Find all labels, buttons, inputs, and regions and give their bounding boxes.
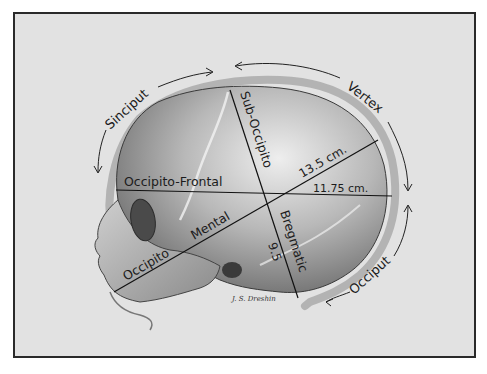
artist-signature: J. S. Dreshin bbox=[230, 295, 276, 303]
arrowhead-icon bbox=[326, 299, 333, 306]
ear-opening bbox=[222, 262, 242, 278]
sinciput-arrow-down bbox=[98, 130, 106, 172]
occipito-frontal-value: 11.75 cm. bbox=[313, 182, 368, 195]
vertex-arrow bbox=[236, 63, 340, 78]
occipito-frontal-label: Occipito-Frontal bbox=[124, 174, 223, 189]
skull-diagram: Sinciput Vertex Occiput Occipito-Frontal… bbox=[0, 0, 487, 374]
